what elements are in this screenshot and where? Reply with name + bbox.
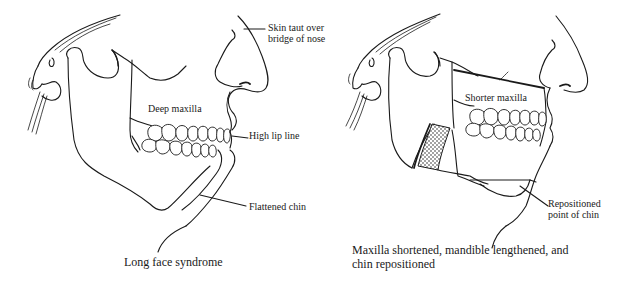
caption-after-surgery-line2: chin repositioned [352,258,435,271]
label-high-lip-line: High lip line [249,131,300,142]
leader-repositioned-chin [520,186,548,206]
figure: Skin taut over bridge of nose Deep maxil… [0,0,625,282]
label-deep-maxilla: Deep maxilla [148,104,202,115]
lower-teeth [142,139,216,157]
caption-after-surgery-line1: Maxilla shortened, mandible lengthened, … [352,244,569,257]
leader-lip [232,136,248,138]
label-skin-taut: Skin taut over [268,23,324,34]
caption-long-face-syndrome: Long face syndrome [124,256,223,269]
label-shorter-maxilla: Shorter maxilla [465,93,527,104]
upper-teeth-after [470,108,546,126]
label-flattened-chin: Flattened chin [249,202,306,213]
bone-graft [418,124,450,170]
label-skin-taut-line2: bridge of nose [268,34,325,45]
label-repositioned-chin: Repositioned [548,199,601,210]
lower-teeth-after [466,123,540,141]
left-skull-illustration [28,15,268,252]
label-repositioned-chin-line2: point of chin [548,210,599,221]
